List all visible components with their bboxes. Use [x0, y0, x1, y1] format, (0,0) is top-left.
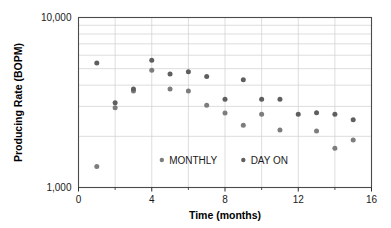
- data-point: [277, 97, 282, 102]
- x-tick-label: 16: [366, 194, 378, 205]
- data-point: [351, 117, 356, 122]
- data-point: [241, 123, 246, 128]
- x-axis-title: Time (months): [189, 209, 261, 221]
- data-point: [332, 146, 337, 151]
- data-point: [113, 105, 118, 110]
- scatter-chart: 04812161,00010,000Time (months)Producing…: [0, 0, 391, 228]
- legend-label: DAY ON: [251, 155, 288, 166]
- data-point: [259, 97, 264, 102]
- legend-item: DAY ON: [241, 155, 288, 166]
- data-point: [332, 112, 337, 117]
- data-point: [241, 77, 246, 82]
- data-point: [204, 103, 209, 108]
- data-point: [223, 111, 228, 116]
- data-point: [296, 112, 301, 117]
- legend-marker-icon: [241, 158, 245, 162]
- data-point: [168, 72, 173, 77]
- y-axis-title: Producing Rate (BOPM): [12, 43, 24, 162]
- data-point: [94, 60, 99, 65]
- data-point: [204, 74, 209, 79]
- x-tick-label: 12: [293, 194, 305, 205]
- data-point: [94, 164, 99, 169]
- legend-label: MONTHLY: [169, 155, 217, 166]
- data-point: [186, 88, 191, 93]
- chart-canvas: 04812161,00010,000Time (months)Producing…: [0, 0, 391, 228]
- legend-marker-icon: [160, 158, 164, 162]
- data-point: [259, 112, 264, 117]
- data-point: [314, 128, 319, 133]
- y-tick-label: 10,000: [41, 12, 72, 23]
- data-point: [131, 86, 136, 91]
- x-tick-label: 8: [222, 194, 228, 205]
- axis-ticks: [79, 188, 372, 192]
- data-point: [277, 127, 282, 132]
- grid-lines: [79, 18, 372, 188]
- axis-labels: 04812161,00010,000Time (months)Producing…: [12, 12, 377, 221]
- x-tick-label: 4: [149, 194, 155, 205]
- data-point: [186, 69, 191, 74]
- data-point: [113, 100, 118, 105]
- y-tick-label: 1,000: [46, 182, 71, 193]
- data-point: [149, 58, 154, 63]
- data-point: [351, 138, 356, 143]
- data-point: [168, 86, 173, 91]
- data-point: [149, 68, 154, 73]
- x-tick-label: 0: [76, 194, 82, 205]
- data-point: [314, 110, 319, 115]
- chart-legend: MONTHLYDAY ON: [160, 155, 288, 166]
- data-point: [223, 97, 228, 102]
- legend-item: MONTHLY: [160, 155, 218, 166]
